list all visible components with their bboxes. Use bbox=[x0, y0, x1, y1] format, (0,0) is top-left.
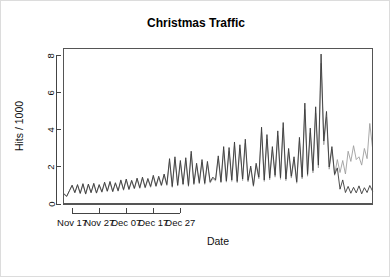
series-line-unique-visitors bbox=[64, 63, 373, 196]
plot-box-frame bbox=[64, 49, 373, 205]
x-axis: Nov 17Nov 27Dec 07Dec 17Dec 27 bbox=[57, 208, 195, 228]
christmas-traffic-chart: Christmas Traffic 02468 Nov 17Nov 27Dec … bbox=[1, 1, 390, 277]
y-tick-label: 0 bbox=[46, 201, 57, 206]
chart-title: Christmas Traffic bbox=[147, 16, 245, 30]
y-tick-label: 4 bbox=[46, 127, 57, 132]
x-tick-label: Nov 27 bbox=[84, 217, 114, 228]
x-tick-label: Dec 17 bbox=[138, 217, 168, 228]
x-tick-label: Nov 17 bbox=[57, 217, 87, 228]
x-axis-title: Date bbox=[207, 235, 229, 247]
y-axis-title: Hits / 1000 bbox=[13, 101, 25, 151]
x-tick-label: Dec 07 bbox=[111, 217, 141, 228]
y-tick-label: 2 bbox=[46, 164, 57, 169]
y-tick-label: 8 bbox=[46, 53, 57, 58]
series-lines bbox=[64, 54, 373, 197]
y-axis: 02468 bbox=[46, 53, 62, 206]
y-tick-label: 6 bbox=[46, 90, 57, 95]
x-tick-label: Dec 27 bbox=[165, 217, 195, 228]
chart-figure: Christmas Traffic 02468 Nov 17Nov 27Dec … bbox=[0, 0, 390, 277]
series-line-total-hits bbox=[64, 54, 373, 196]
